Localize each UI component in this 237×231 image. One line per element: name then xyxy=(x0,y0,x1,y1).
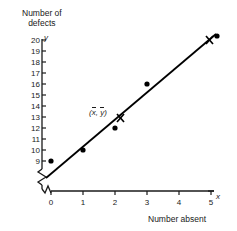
regression-line xyxy=(46,34,216,178)
endpoint-cross-marker-icon xyxy=(206,36,213,44)
scatter-plot-figure: Number of defects y x Number absent 20 1… xyxy=(0,0,237,231)
data-point-2-12 xyxy=(112,125,117,130)
data-point-1-10 xyxy=(80,147,85,152)
data-point-3-16 xyxy=(144,81,149,86)
data-point-5-20 xyxy=(214,33,219,38)
y-axis-break-icon xyxy=(38,169,46,185)
data-point-0-9 xyxy=(48,158,53,163)
plot-canvas xyxy=(0,0,237,231)
x-axis-break-icon xyxy=(42,186,51,193)
